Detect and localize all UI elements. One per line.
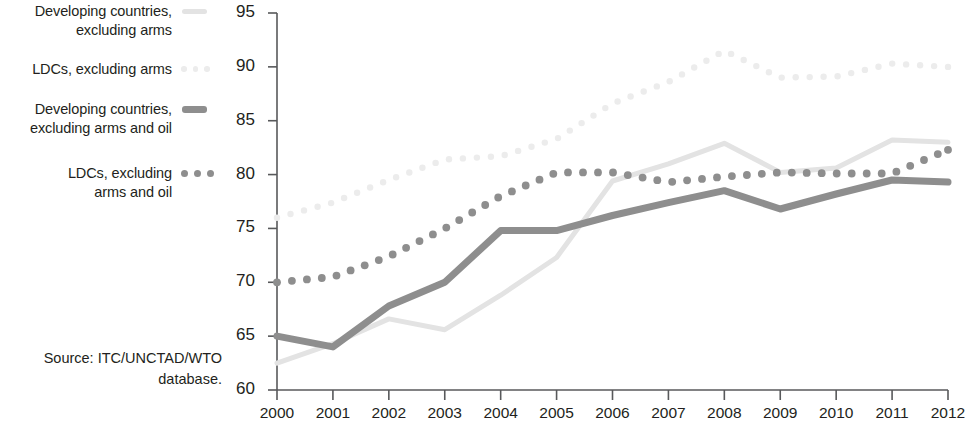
series-dotted-light-marker — [446, 156, 452, 162]
series-dotted-dark-marker — [818, 169, 826, 177]
series-dotted-dark-marker — [893, 168, 901, 176]
series-dotted-light-marker — [488, 154, 494, 160]
x-tick-label: 2008 — [696, 404, 752, 422]
y-tick-label: 60 — [215, 379, 255, 399]
series-dotted-light-marker — [502, 152, 508, 158]
x-tick-label: 2002 — [361, 404, 417, 422]
series-dotted-light-marker — [393, 174, 399, 180]
series-dotted-light-marker — [945, 64, 951, 70]
series-dotted-dark-marker — [713, 174, 721, 182]
series-dotted-dark-marker — [863, 170, 871, 178]
series-dotted-light-marker — [627, 93, 633, 99]
series-dotted-dark-marker — [549, 170, 557, 178]
series-dotted-light-marker — [528, 144, 534, 150]
series-dotted-light-marker — [287, 211, 293, 217]
series-dotted-light-marker — [328, 200, 334, 206]
series-dotted-dark-marker — [389, 251, 397, 259]
chart-figure: Developing countries,excluding arms LDCs… — [0, 0, 974, 434]
series-dotted-dark-marker — [698, 175, 706, 183]
x-tick-label: 2000 — [249, 404, 305, 422]
x-tick-label: 2001 — [305, 404, 361, 422]
series-dotted-dark-marker — [639, 174, 647, 182]
series-dotted-light-marker — [341, 195, 347, 201]
series-dotted-dark-marker — [508, 188, 516, 196]
y-tick-label: 65 — [215, 325, 255, 345]
series-dotted-dark-marker — [375, 256, 383, 264]
series-dotted-light-marker — [555, 135, 561, 141]
series-dotted-dark-marker — [402, 244, 410, 252]
series-dotted-light-marker — [654, 83, 660, 89]
series-dotted-dark-marker — [683, 176, 691, 184]
y-tick-label: 90 — [215, 56, 255, 76]
series-dotted-dark-marker — [347, 267, 355, 275]
series-dotted-dark-marker — [743, 171, 751, 179]
series-dotted-dark-marker — [728, 172, 736, 180]
series-dotted-dark-marker — [653, 176, 661, 184]
series-dotted-light-marker — [875, 64, 881, 70]
series-dotted-dark-marker — [481, 201, 489, 209]
series-dotted-light-marker — [834, 73, 840, 79]
series-dotted-light-marker — [703, 58, 709, 64]
series-dotted-dark-marker — [668, 178, 676, 186]
y-tick-label: 85 — [215, 110, 255, 130]
x-tick-label: 2010 — [808, 404, 864, 422]
x-tick-label: 2003 — [417, 404, 473, 422]
x-tick-label: 2011 — [864, 404, 920, 422]
series-dotted-light-marker — [314, 204, 320, 210]
series-dotted-dark-marker — [494, 194, 502, 202]
series-dotted-dark-marker — [579, 169, 587, 177]
x-tick-label: 2007 — [640, 404, 696, 422]
series-dotted-light-marker — [614, 98, 620, 104]
series-dotted-light-marker — [820, 74, 826, 80]
series-dotted-dark-marker — [906, 162, 914, 170]
series-dotted-dark-marker — [803, 169, 811, 177]
series-dotted-light-marker — [301, 207, 307, 213]
x-tick-label: 2005 — [529, 404, 585, 422]
series-dotted-light-marker — [848, 70, 854, 76]
series-dotted-light-marker — [793, 74, 799, 80]
series-dotted-light-marker — [406, 169, 412, 175]
series-dotted-dark-marker — [609, 169, 617, 177]
series-dotted-dark-marker — [468, 209, 476, 217]
series-dotted-light-marker — [917, 62, 923, 68]
series-dotted-dark-marker — [758, 170, 766, 178]
y-tick-label: 70 — [215, 271, 255, 291]
series-dotted-light-marker — [602, 105, 608, 111]
series-dotted-light-marker — [274, 215, 280, 221]
x-tick-label: 2012 — [920, 404, 974, 422]
series-dotted-light-marker — [380, 179, 386, 185]
series-dotted-dark-marker — [944, 146, 952, 154]
series-dotted-dark-marker — [333, 272, 341, 280]
x-tick-label: 2004 — [473, 404, 529, 422]
series-dotted-light-marker — [542, 139, 548, 145]
series-dotted-light-marker — [807, 74, 813, 80]
series-dotted-light-marker — [741, 57, 747, 63]
series-dotted-dark-marker — [303, 276, 311, 284]
series-dotted-dark-marker — [288, 277, 296, 285]
x-tick-label: 2009 — [752, 404, 808, 422]
series-dotted-light-marker — [432, 160, 438, 166]
series-dotted-light-marker — [903, 61, 909, 67]
series-dotted-dark-marker — [788, 169, 796, 177]
series-dotted-light-marker — [862, 67, 868, 73]
series-dotted-light-marker — [567, 127, 573, 133]
series-dotted-light-marker — [474, 154, 480, 160]
series-dotted-dark-marker — [934, 150, 942, 158]
chart-canvas — [0, 0, 974, 434]
series-dotted-light-marker — [779, 74, 785, 80]
series-dotted-dark-marker — [594, 169, 602, 177]
series-dotted-light-marker — [590, 112, 596, 118]
series-dotted-light-marker — [354, 190, 360, 196]
series-dotted-light-marker — [728, 51, 734, 57]
series-dotted-light-marker — [367, 184, 373, 190]
series-dotted-light-marker — [667, 78, 673, 84]
y-tick-label: 95 — [215, 2, 255, 22]
series-dotted-dark-marker — [318, 274, 326, 282]
series-dotted-dark-marker — [773, 169, 781, 177]
series-dotted-light-marker — [753, 63, 759, 69]
series-dotted-light-marker — [679, 71, 685, 77]
series-dotted-dark-marker — [536, 176, 544, 184]
series-dotted-dark-marker — [878, 170, 886, 178]
series-dotted-dark-marker — [848, 170, 856, 178]
series-dotted-light-marker — [419, 165, 425, 171]
